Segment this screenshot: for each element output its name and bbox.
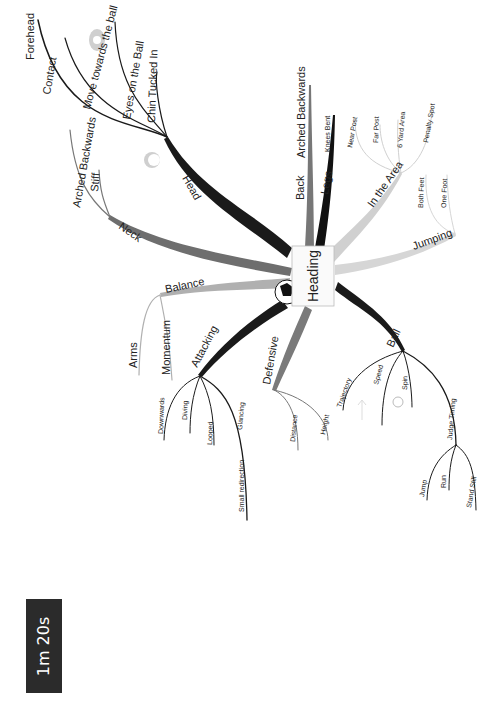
label-small-redirection: Small redirection <box>238 460 245 512</box>
label-legs: Legs <box>318 169 334 195</box>
label-stiff: Stiff <box>88 172 102 193</box>
branch-neck <box>108 215 292 276</box>
label-far-post: Far Post <box>372 116 380 143</box>
label-arms: Arms <box>127 342 139 368</box>
label-chin-tucked-in: Chin Tucked In <box>145 49 160 123</box>
label-diving: Diving <box>181 400 190 420</box>
head-icon <box>144 152 160 168</box>
label-contact: Contact <box>40 56 58 95</box>
label-back: Back <box>294 175 306 200</box>
label-knees-bent: Knees Bent <box>324 116 331 152</box>
label-move-towards-ball: Move towards the ball <box>80 4 119 110</box>
label-downwards: Downwards <box>157 397 165 434</box>
central-label: Heading <box>305 250 321 302</box>
label-penalty-spot: Penalty Spot <box>422 103 437 144</box>
timer-label: 1m 20s <box>35 616 54 676</box>
label-back-arched: Arched Backwards <box>295 66 307 158</box>
label-neck-arched: Arched Backwards <box>70 115 98 208</box>
label-distance: Distance <box>289 414 298 442</box>
label-run: Run <box>440 475 447 488</box>
label-trajectory: Trajectory <box>335 376 353 408</box>
label-eyes-on-ball: Eyes on the Ball <box>120 40 146 120</box>
label-forehead: Forehead <box>24 13 36 60</box>
label-momentum: Momentum <box>160 320 172 375</box>
label-height: Height <box>319 414 331 436</box>
timer-badge: 1m 20s <box>26 599 62 693</box>
trajectory-icon <box>358 400 366 420</box>
label-glancing: Glancing <box>236 402 246 430</box>
branch-head <box>164 137 292 258</box>
label-neck: Neck <box>117 220 145 244</box>
spin-icon <box>393 397 403 407</box>
label-6-yard-area: 6 Yard Area <box>396 111 406 148</box>
label-both-feet: Both Feet <box>417 177 425 208</box>
label-near-post: Near Post <box>346 116 358 148</box>
label-speed: Speed <box>372 364 385 386</box>
label-spin: Spin <box>401 376 409 390</box>
mind-map: Heading Head Neck Balance Attacking Defe… <box>0 0 503 719</box>
label-jumping: Jumping <box>411 226 454 251</box>
label-one-foot: One Foot <box>440 179 448 208</box>
